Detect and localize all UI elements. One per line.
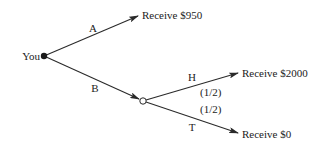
prob-t-label: (1/2) xyxy=(200,103,222,116)
chance-node-icon xyxy=(140,98,146,104)
decision-node-icon xyxy=(41,53,47,59)
branch-b-label: B xyxy=(91,82,98,94)
branch-h-label: H xyxy=(188,71,196,83)
decision-tree-diagram: You A Receive $950 B H (1/2) Receive $20… xyxy=(0,0,323,147)
outcome-h-label: Receive $2000 xyxy=(242,67,308,79)
branch-t-label: T xyxy=(189,121,196,133)
tree-svg: You A Receive $950 B H (1/2) Receive $20… xyxy=(0,0,323,147)
outcome-t-label: Receive $0 xyxy=(242,128,292,140)
root-label: You xyxy=(22,50,40,62)
prob-h-label: (1/2) xyxy=(200,86,222,99)
outcome-a-label: Receive $950 xyxy=(142,9,203,21)
branch-a-label: A xyxy=(89,22,97,34)
